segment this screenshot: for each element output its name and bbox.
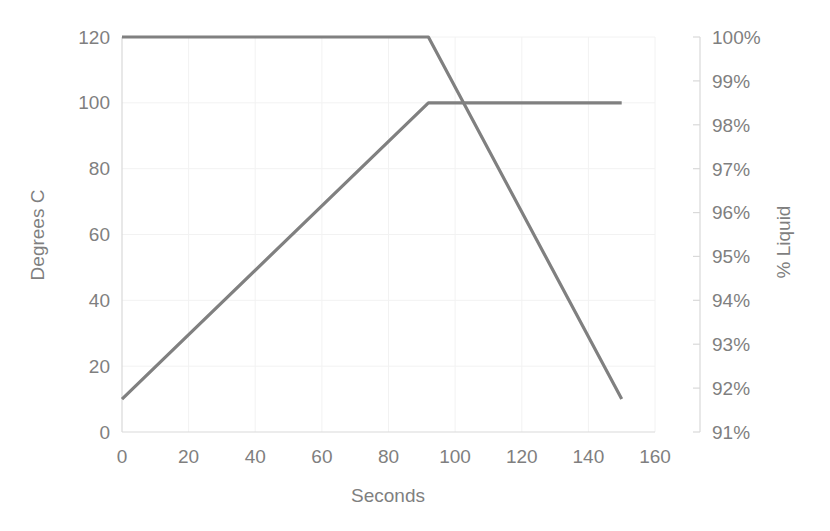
x-tick-label: 20 [178, 446, 199, 467]
y2-tick-label: 100% [712, 27, 761, 48]
right-axis-tick-labels: 100% 99% 98% 97% 96% 95% 94% 93% 92% 91% [712, 27, 761, 443]
x-tick-label: 80 [378, 446, 399, 467]
y2-tick-label: 95% [712, 246, 750, 267]
y-tick-label: 80 [89, 158, 110, 179]
y2-axis-title: % Liquid [773, 206, 794, 279]
line-chart: 120 100 80 60 40 20 0 100% 99% 98% 97% 9… [0, 0, 830, 531]
y-tick-label: 0 [99, 422, 110, 443]
series-line-percent-liquid [122, 37, 622, 399]
series-line-degrees-c [122, 103, 622, 399]
y2-tick-label: 94% [712, 290, 750, 311]
y-tick-label: 60 [89, 224, 110, 245]
x-tick-label: 0 [117, 446, 128, 467]
x-tick-label: 40 [245, 446, 266, 467]
x-tick-label: 100 [439, 446, 471, 467]
y2-tick-label: 97% [712, 159, 750, 180]
y2-tick-label: 93% [712, 334, 750, 355]
x-axis-title: Seconds [351, 485, 425, 506]
y2-tick-label: 99% [712, 71, 750, 92]
x-tick-label: 60 [311, 446, 332, 467]
y-tick-label: 20 [89, 356, 110, 377]
y2-tick-label: 98% [712, 115, 750, 136]
x-tick-label: 120 [506, 446, 538, 467]
right-axis-ticks [693, 37, 700, 432]
chart-container: 120 100 80 60 40 20 0 100% 99% 98% 97% 9… [0, 0, 830, 531]
x-tick-label: 160 [639, 446, 671, 467]
y2-tick-label: 96% [712, 202, 750, 223]
y-tick-label: 40 [89, 290, 110, 311]
y-tick-label: 100 [78, 92, 110, 113]
x-axis-tick-labels: 0 20 40 60 80 100 120 140 160 [117, 446, 671, 467]
left-axis-tick-labels: 120 100 80 60 40 20 0 [78, 27, 110, 443]
y-tick-label: 120 [78, 27, 110, 48]
y2-tick-label: 91% [712, 422, 750, 443]
y2-tick-label: 92% [712, 378, 750, 399]
x-tick-label: 140 [573, 446, 605, 467]
y-axis-title: Degrees C [27, 190, 48, 281]
